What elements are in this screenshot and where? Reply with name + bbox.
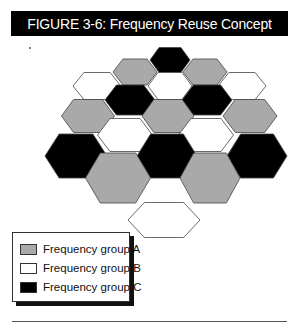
legend-label: Frequency group C	[43, 281, 141, 293]
hex-cell-group-b	[128, 203, 200, 238]
bottom-divider	[12, 321, 287, 322]
black-swatch-icon	[20, 282, 37, 293]
hex-cell-group-a	[183, 59, 227, 85]
legend-item-group-b: Frequency group B	[20, 262, 141, 274]
hex-cell-group-c	[150, 48, 190, 73]
legend-item-group-a: Frequency group A	[20, 243, 140, 255]
legend-label: Frequency group A	[43, 243, 140, 255]
hex-cell-group-a	[113, 59, 157, 85]
white-swatch-icon	[20, 263, 37, 274]
legend-item-group-c: Frequency group C	[20, 281, 141, 293]
legend: Frequency group A Frequency group B Freq…	[12, 232, 130, 302]
gray-swatch-icon	[20, 244, 37, 255]
hex-cell-group-a	[223, 100, 277, 133]
legend-label: Frequency group B	[43, 262, 141, 274]
